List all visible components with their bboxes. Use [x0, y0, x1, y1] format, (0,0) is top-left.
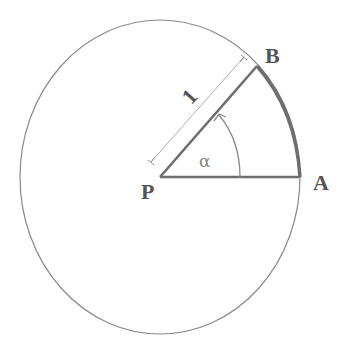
label-a: A — [313, 170, 329, 195]
label-angle: α — [199, 151, 211, 171]
dimension-line — [151, 57, 244, 162]
label-radius: 1 — [176, 84, 202, 109]
unit-circle-diagram: 1 α P A B — [0, 0, 351, 347]
dimension-tick-start — [148, 157, 155, 165]
label-p: P — [141, 179, 154, 204]
label-b: B — [265, 43, 280, 68]
angle-arc — [219, 115, 240, 177]
dimension-tick-end — [240, 55, 247, 62]
arc-ab — [257, 66, 300, 177]
